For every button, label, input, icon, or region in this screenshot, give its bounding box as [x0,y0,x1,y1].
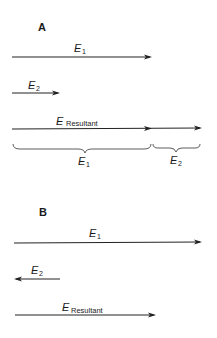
panel-b-label: B [39,206,47,218]
panel-a: A E 1 E 2 E Resultant E 1 [12,21,202,168]
panel-a-label: A [38,21,46,33]
vector-subscript: 1 [82,48,86,55]
panel-b: B E 1 E 2 E Resultant [14,206,202,318]
vector-symbol: E [28,79,36,91]
vector-symbol: E [62,301,70,313]
vector-subscript: 2 [39,270,43,277]
vector-symbol: E [74,42,82,54]
panel-a-brace-e1: E 1 [13,144,151,168]
panel-a-brace-e2: E 2 [153,144,200,167]
vector-subscript: Resultant [66,119,99,128]
vector-symbol: E [89,227,97,239]
curly-brace-icon [13,144,151,153]
panel-a-vector-e1: E 1 [12,42,152,60]
panel-b-vector-e1: E 1 [89,227,101,240]
vector-symbol: E [31,264,39,276]
vector-subscript: 1 [97,233,101,240]
panel-a-vector-resultant: E Resultant [12,115,202,131]
vector-shaft [12,128,200,129]
panel-b-vector-e2: E 2 [14,264,60,282]
panel-b-vector-resultant: E Resultant [15,301,156,318]
curly-brace-icon [153,144,200,152]
vector-shaft [14,242,200,243]
vector-subscript: Resultant [71,306,104,315]
panel-a-vector-e2: E 2 [12,79,60,96]
brace-subscript: 2 [178,160,182,167]
brace-symbol: E [78,155,86,167]
brace-symbol: E [170,154,178,166]
vector-addition-diagram: A E 1 E 2 E Resultant E 1 [0,0,217,338]
brace-subscript: 1 [86,161,90,168]
vector-subscript: 2 [36,85,40,92]
vector-symbol: E [56,115,64,127]
